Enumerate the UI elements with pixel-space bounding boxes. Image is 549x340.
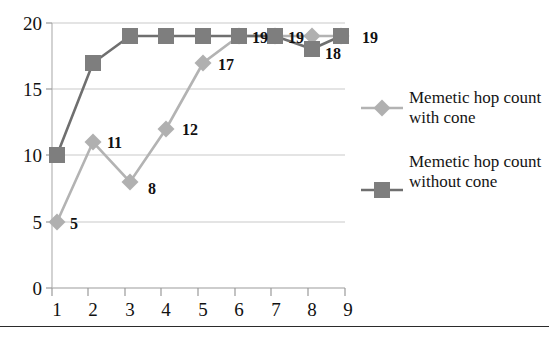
marker-diamond xyxy=(158,121,175,138)
x-tick-label-2: 2 xyxy=(78,300,108,319)
bottom-divider xyxy=(0,326,549,327)
legend-item-without-cone[interactable]: Memetic hop count without cone xyxy=(357,152,545,192)
x-tick-label-5: 5 xyxy=(188,300,218,319)
x-tick-label-1: 1 xyxy=(42,300,72,319)
legend-label-without-cone: Memetic hop count without cone xyxy=(409,152,545,192)
chart-figure: 20 15 10 5 0 1 2 3 4 5 6 7 8 9 5 11 8 12… xyxy=(0,0,549,340)
y-tick-label-20: 20 xyxy=(4,14,42,33)
legend-item-with-cone[interactable]: Memetic hop count with cone xyxy=(357,88,545,128)
marker-square xyxy=(122,28,138,44)
data-label-point-6: 19 xyxy=(252,30,268,46)
data-label-point-5: 17 xyxy=(218,57,234,73)
marker-square xyxy=(231,28,247,44)
marker-diamond xyxy=(49,214,66,231)
x-tick-label-4: 4 xyxy=(151,300,181,319)
marker-square xyxy=(158,28,174,44)
y-tick-label-0: 0 xyxy=(4,279,42,298)
marker-square xyxy=(195,28,211,44)
marker-square xyxy=(333,28,349,44)
series-without-cone-line xyxy=(57,36,341,155)
x-tick-label-6: 6 xyxy=(224,300,254,319)
data-label-point-1: 5 xyxy=(70,216,78,232)
data-label-point-4: 12 xyxy=(182,122,198,138)
data-label-point-8: 18 xyxy=(325,46,341,62)
legend-label-with-cone: Memetic hop count with cone xyxy=(409,88,545,128)
legend-diamond-marker-icon xyxy=(357,100,401,104)
x-tick-label-9: 9 xyxy=(333,300,363,319)
y-tick-label-10: 10 xyxy=(4,146,42,165)
x-tick-label-8: 8 xyxy=(297,300,327,319)
data-label-point-3: 8 xyxy=(148,181,156,197)
y-tick-label-15: 15 xyxy=(4,80,42,99)
x-tick-label-3: 3 xyxy=(115,300,145,319)
marker-square xyxy=(304,41,320,57)
data-label-point-7: 19 xyxy=(288,30,304,46)
legend-square-marker-icon xyxy=(357,164,401,168)
y-tick-label-5: 5 xyxy=(4,213,42,232)
marker-square xyxy=(49,147,65,163)
data-label-point-2: 11 xyxy=(107,135,122,151)
data-label-point-9: 19 xyxy=(362,30,378,46)
marker-square xyxy=(85,55,101,71)
chart-legend: Memetic hop count with cone Memetic hop … xyxy=(357,88,545,206)
marker-square xyxy=(267,28,283,44)
x-tick-marks xyxy=(52,288,345,296)
x-tick-label-7: 7 xyxy=(261,300,291,319)
